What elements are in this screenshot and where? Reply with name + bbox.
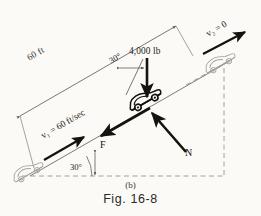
- figure-part-label: (b): [0, 181, 261, 190]
- car-middle: [126, 84, 164, 114]
- friction-force-label: F: [100, 140, 106, 150]
- normal-vector: [152, 113, 186, 152]
- figure-container: 60 ft 30° 4,000 lb v₁ = 60 ft/sec v₂ = 0…: [0, 0, 261, 216]
- normal-force-label: N: [185, 148, 192, 158]
- weight-label: 4,000 lb: [129, 47, 161, 56]
- incline-angle-label: 30°: [70, 163, 82, 172]
- friction-vector: [101, 108, 150, 136]
- figure-caption: Fig. 16-8: [0, 193, 261, 206]
- weight-angle-marker: [120, 59, 144, 95]
- incline-angle-marker: [87, 153, 96, 176]
